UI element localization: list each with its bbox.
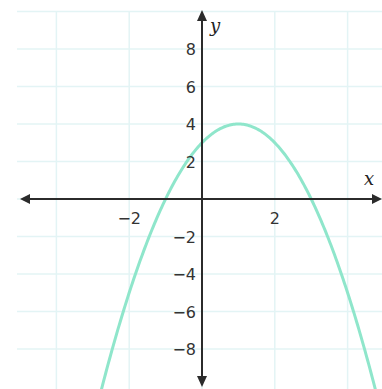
y-tick-label: −4	[172, 265, 196, 284]
y-tick-label: 6	[186, 78, 196, 97]
y-tick-label: 2	[186, 153, 196, 172]
x-axis-right-arrow-icon	[372, 194, 382, 204]
y-tick-label: −8	[172, 340, 196, 359]
x-axis-left-arrow-icon	[20, 194, 30, 204]
x-tick-label: 2	[270, 209, 280, 228]
y-tick-label: 8	[186, 40, 196, 59]
axes	[20, 10, 382, 387]
parabola-chart: −228642−2−4−6−8 y x	[0, 0, 382, 389]
y-tick-label: −2	[172, 228, 196, 247]
y-axis-down-arrow-icon	[197, 376, 207, 387]
y-tick-label: 4	[186, 115, 196, 134]
y-axis-label: y	[209, 15, 221, 36]
x-axis-label: x	[364, 168, 374, 189]
x-tick-label: −2	[117, 209, 141, 228]
y-tick-label: −6	[172, 303, 196, 322]
